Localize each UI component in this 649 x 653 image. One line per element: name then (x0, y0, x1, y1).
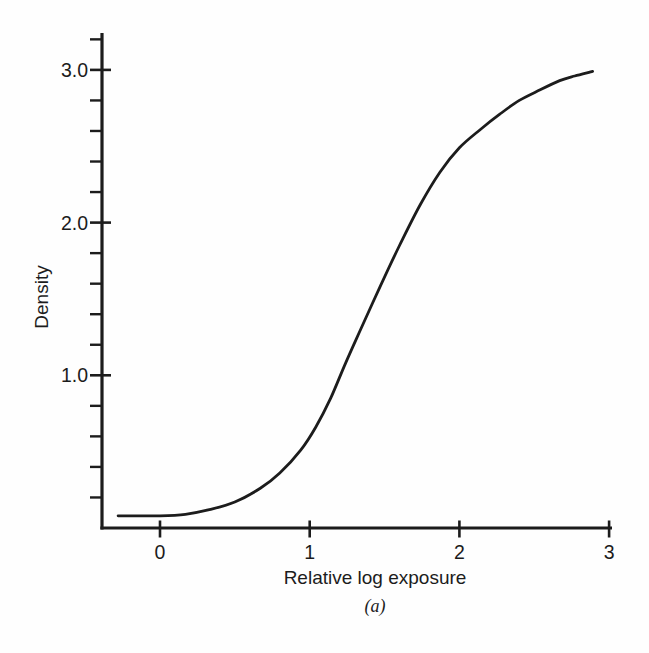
x-tick-label: 3 (604, 541, 615, 563)
figure: 1.02.03.00123 Density Relative log expos… (0, 0, 649, 653)
figure-caption: (a) (365, 596, 386, 617)
hd-curve-chart: 1.02.03.00123 Density Relative log expos… (0, 0, 649, 653)
y-tick-label: 1.0 (61, 364, 88, 386)
y-axis-label: Density (31, 265, 52, 329)
axes: 1.02.03.00123 (61, 33, 615, 563)
x-tick-label: 2 (454, 541, 465, 563)
curve-layer (118, 71, 592, 515)
x-tick-label: 1 (304, 541, 315, 563)
y-tick-label: 2.0 (61, 212, 88, 234)
y-tick-label: 3.0 (61, 59, 88, 81)
density-curve (118, 71, 592, 515)
x-tick-label: 0 (155, 541, 166, 563)
x-axis-label: Relative log exposure (284, 567, 467, 588)
